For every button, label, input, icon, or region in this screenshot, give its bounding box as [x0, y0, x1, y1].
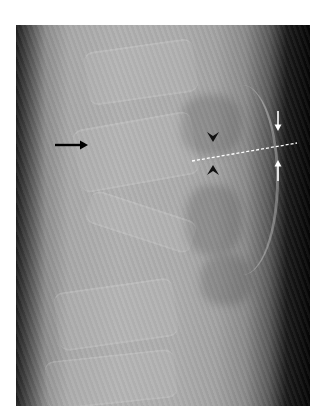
rib-shadow	[206, 85, 279, 275]
radiograph-image	[16, 25, 310, 406]
figure-canvas	[0, 0, 326, 417]
